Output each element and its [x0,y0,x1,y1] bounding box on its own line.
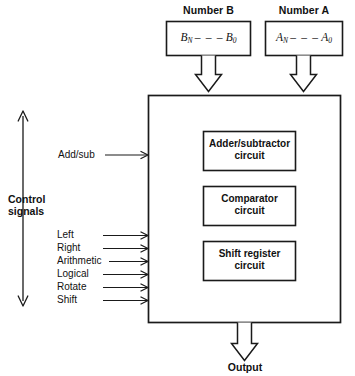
shift-register-label-line2: circuit [203,260,296,272]
number-b-msb-sub: N [188,36,193,45]
control-signals-label: Control signals [8,193,70,218]
signal-label-rotate: Rotate [57,281,86,292]
shift-register-label: Shift register circuit [203,248,296,271]
output-block-arrow [232,323,258,361]
number-b-title: Number B [166,5,251,17]
diagram-canvas [0,0,355,376]
number-a-block-arrow [291,56,317,92]
control-signals-label-line1: Control [8,193,70,205]
adder-subtractor-label-line2: circuit [203,150,296,162]
signal-label-add-sub: Add/sub [58,149,95,160]
signal-label-logical: Logical [57,268,89,279]
number-a-bit-range: AN– – –A0 [265,31,343,43]
comparator-label-line1: Comparator [203,193,296,205]
signal-label-shift: Shift [57,294,77,305]
control-signals-label-line2: signals [8,205,70,217]
number-a-dashes: – – – [288,31,321,43]
number-a-msb-sub: N [283,36,288,45]
number-a-lsb-sub: 0 [328,36,332,45]
number-b-bit-range: BN– – –B0 [166,31,251,43]
comparator-label: Comparator circuit [203,193,296,216]
alu-block-diagram: Number B Number A BN– – –B0 AN– – –A0 Ad… [0,0,355,376]
adder-subtractor-label: Adder/subtractor circuit [203,138,296,161]
comparator-label-line2: circuit [203,205,296,217]
adder-subtractor-label-line1: Adder/subtractor [203,138,296,150]
signal-label-left: Left [57,229,74,240]
output-label: Output [205,362,285,374]
signal-label-arithmetic: Arithmetic [57,255,101,266]
number-b-lsb: B [226,31,233,43]
number-b-msb: B [181,31,188,43]
add-sub-signal-arrow [105,151,148,159]
number-b-block-arrow [196,56,222,92]
number-a-title: Number A [265,5,343,17]
shift-register-label-line1: Shift register [203,248,296,260]
number-b-lsb-sub: 0 [233,36,237,45]
signal-label-right: Right [57,242,80,253]
number-b-dashes: – – – [193,31,226,43]
shift-signal-arrows [103,232,148,305]
